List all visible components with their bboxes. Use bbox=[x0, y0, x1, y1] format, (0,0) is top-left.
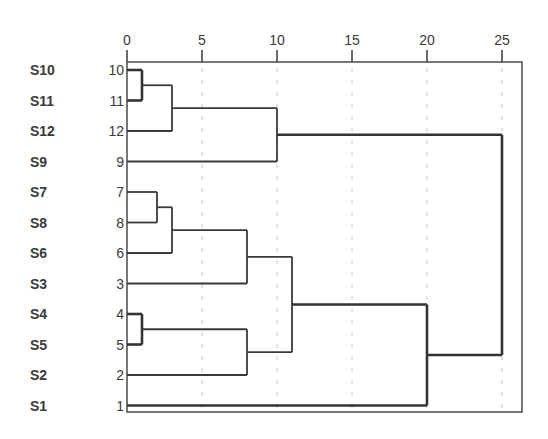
x-tick-label: 10 bbox=[269, 32, 285, 48]
x-axis-ticks bbox=[127, 50, 502, 62]
leaf-index-label: 7 bbox=[116, 184, 124, 200]
sample-label: S11 bbox=[30, 93, 54, 109]
leaf-index-label: 9 bbox=[116, 154, 124, 170]
dendrogram-branches bbox=[127, 70, 502, 406]
leaf-index-label: 4 bbox=[116, 306, 124, 322]
x-tick-label: 25 bbox=[494, 32, 510, 48]
leaf-index-label: 1 bbox=[116, 398, 124, 414]
sample-label: S7 bbox=[30, 184, 47, 200]
plot-frame bbox=[127, 62, 522, 412]
sample-label: S9 bbox=[30, 154, 47, 170]
leaf-index-label: 6 bbox=[116, 245, 124, 261]
leaf-index-label: 11 bbox=[109, 93, 124, 109]
x-tick-label: 15 bbox=[344, 32, 360, 48]
x-tick-label: 5 bbox=[198, 32, 206, 48]
leaf-index-label: 2 bbox=[116, 367, 124, 383]
sample-label: S4 bbox=[30, 306, 47, 322]
sample-label: S2 bbox=[30, 367, 47, 383]
sample-label: S6 bbox=[30, 245, 47, 261]
leaf-index-label: 12 bbox=[108, 123, 124, 139]
dendrogram-chart: 0510152025 S10S11S12S9S7S8S6S3S4S5S2S1 1… bbox=[0, 0, 548, 439]
sample-label: S12 bbox=[30, 123, 55, 139]
sample-label: S1 bbox=[30, 398, 47, 414]
leaf-index-label: 5 bbox=[116, 337, 124, 353]
x-axis-tick-labels: 0510152025 bbox=[123, 32, 510, 48]
sample-label: S5 bbox=[30, 337, 47, 353]
x-tick-label: 20 bbox=[419, 32, 435, 48]
leaf-index-label: 10 bbox=[108, 62, 124, 78]
leaf-index-label: 3 bbox=[116, 276, 124, 292]
sample-label: S8 bbox=[30, 215, 47, 231]
sample-labels: S10S11S12S9S7S8S6S3S4S5S2S1 bbox=[30, 62, 55, 414]
x-tick-label: 0 bbox=[123, 32, 131, 48]
sample-label: S3 bbox=[30, 276, 47, 292]
leaf-index-labels: 101112978634521 bbox=[108, 62, 124, 414]
sample-label: S10 bbox=[30, 62, 55, 78]
leaf-index-label: 8 bbox=[116, 215, 124, 231]
